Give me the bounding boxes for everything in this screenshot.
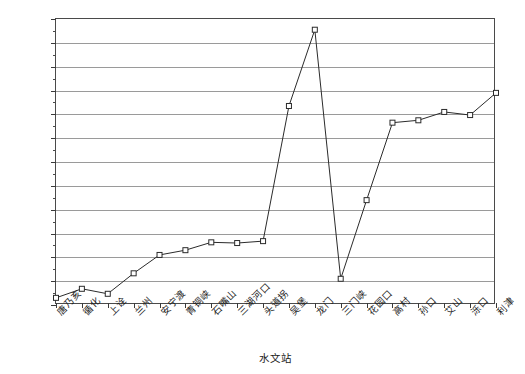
data-point — [157, 252, 162, 257]
data-point — [416, 118, 421, 123]
data-point — [54, 295, 59, 300]
data-point — [442, 109, 447, 114]
data-point — [261, 239, 266, 244]
data-point — [105, 291, 110, 296]
data-point — [312, 27, 317, 32]
data-point — [209, 240, 214, 245]
data-point — [338, 276, 343, 281]
data-point — [235, 241, 240, 246]
data-point — [131, 271, 136, 276]
data-point — [468, 113, 473, 118]
plot-area: 0123456789101112 — [55, 18, 495, 304]
x-tick-label: 利津 — [493, 293, 517, 317]
x-axis-title-text: 水文站 — [259, 353, 292, 364]
data-point — [183, 248, 188, 253]
x-axis-title: 水文站 — [55, 350, 495, 365]
data-point — [390, 120, 395, 125]
data-point — [364, 198, 369, 203]
data-series — [56, 19, 496, 305]
chart-figure: 输沙量/10⁴t 0123456789101112 唐乃亥循化上诠兰州安宁渡青铜… — [0, 0, 525, 374]
series-line — [56, 30, 496, 298]
data-point — [286, 103, 291, 108]
data-point — [494, 90, 499, 95]
